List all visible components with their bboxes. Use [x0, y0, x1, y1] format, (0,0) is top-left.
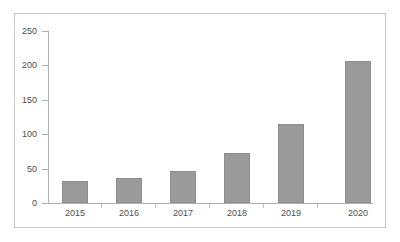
- y-axis-tick-mark: [42, 203, 48, 204]
- y-axis-tick-label: 100: [0, 130, 37, 139]
- y-axis-tick-label: 0: [0, 199, 37, 208]
- x-axis-tick-mark: [317, 204, 318, 208]
- bar-2019[interactable]: [278, 124, 304, 203]
- x-axis-line: [48, 203, 373, 204]
- y-axis-tick-mark: [42, 169, 48, 170]
- y-axis-tick-label: 150: [0, 96, 37, 105]
- x-axis-label-2015: 2015: [45, 209, 105, 218]
- x-axis-tick-mark: [263, 204, 264, 208]
- bar-2017[interactable]: [170, 171, 196, 203]
- y-axis-line: [48, 31, 49, 203]
- bar-2018[interactable]: [224, 153, 250, 203]
- bar-2020[interactable]: [345, 61, 371, 203]
- x-axis-label-2020: 2020: [328, 209, 388, 218]
- x-axis-label-2019: 2019: [261, 209, 321, 218]
- y-axis-tick-mark: [42, 134, 48, 135]
- y-axis-tick-label: 50: [0, 165, 37, 174]
- y-axis-tick-mark: [42, 31, 48, 32]
- bar-2015[interactable]: [62, 181, 88, 203]
- x-axis-label-2017: 2017: [153, 209, 213, 218]
- y-axis-tick-label: 200: [0, 61, 37, 70]
- y-axis-tick-mark: [42, 100, 48, 101]
- y-axis-tick-label: 250: [0, 27, 37, 36]
- bar-chart-figure: 0 50 100 150 200 250 2015 2016 2017 2018…: [0, 0, 400, 242]
- x-axis-tick-mark: [101, 204, 102, 208]
- x-axis-tick-mark: [209, 204, 210, 208]
- x-axis-label-2016: 2016: [99, 209, 159, 218]
- y-axis-tick-mark: [42, 65, 48, 66]
- bar-2016[interactable]: [116, 178, 142, 203]
- x-axis-tick-mark: [155, 204, 156, 208]
- x-axis-label-2018: 2018: [207, 209, 267, 218]
